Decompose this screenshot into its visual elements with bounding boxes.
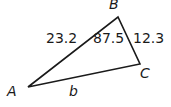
triangle-shape xyxy=(0,0,171,107)
side-length-ac: b xyxy=(69,84,78,98)
angle-measure-b: 87.5 xyxy=(93,31,124,45)
triangle-outline xyxy=(28,17,140,87)
vertex-label-c: C xyxy=(140,66,150,80)
triangle-figure: A B C 23.2 87.5 12.3 b xyxy=(0,0,171,107)
side-length-ab: 23.2 xyxy=(46,31,77,45)
vertex-label-b: B xyxy=(109,0,119,11)
side-length-bc: 12.3 xyxy=(133,31,164,45)
vertex-label-a: A xyxy=(7,84,17,98)
